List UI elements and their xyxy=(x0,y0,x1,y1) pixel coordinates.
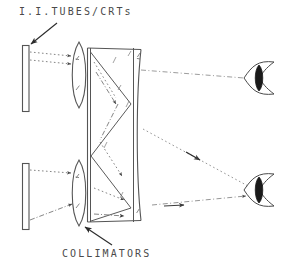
optical-diagram-canvas xyxy=(0,0,294,272)
ray-internal-upper xyxy=(94,62,122,176)
upper-ii-tube xyxy=(23,46,30,112)
lower-collimator xyxy=(72,160,86,226)
collimators-leader-arrow xyxy=(85,227,112,245)
ray-block-to-lower-eye xyxy=(143,129,248,206)
upper-eye xyxy=(244,62,274,95)
upper-collimator xyxy=(72,42,86,108)
lower-eye xyxy=(244,174,274,207)
ii-tubes-crts-label: I.I.TUBES/CRTs xyxy=(19,7,133,17)
collimators-label: COLLIMATORS xyxy=(62,249,151,259)
lower-ii-tube xyxy=(23,164,30,230)
optical-diagram-figure: I.I.TUBES/CRTs COLLIMATORS xyxy=(0,0,294,272)
ray-block-to-upper-eye xyxy=(141,70,244,78)
tubes-leader-arrow xyxy=(31,23,57,44)
ray-lower-source-to-collimator xyxy=(30,170,72,220)
ray-upper-source-to-collimator xyxy=(30,52,71,64)
